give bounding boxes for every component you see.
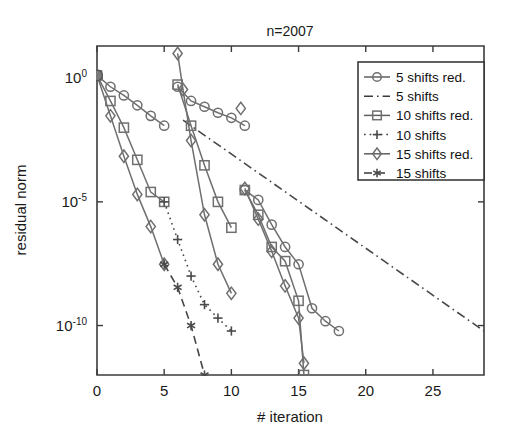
x-tick-label: 0 — [93, 382, 101, 399]
y-axis-label: residual norm — [12, 165, 29, 256]
x-axis-label: # iteration — [257, 408, 323, 425]
x-tick-label: 5 — [160, 382, 168, 399]
legend-label: 5 shifts red. — [396, 70, 466, 85]
legend-label: 5 shifts — [396, 89, 439, 104]
x-tick-label: 10 — [223, 382, 240, 399]
legend-label: 15 shifts red. — [396, 147, 473, 162]
residual-norm-convergence-chart: n=2007 0510152025 10010-510-10 # iterati… — [0, 0, 518, 444]
x-tick-label: 20 — [357, 382, 374, 399]
x-tick-label: 15 — [290, 382, 307, 399]
legend-label: 10 shifts red. — [396, 108, 473, 123]
legend-label: 10 shifts — [396, 128, 447, 143]
legend[interactable]: 5 shifts red.5 shifts10 shifts red.10 sh… — [358, 62, 484, 181]
legend-label: 15 shifts — [396, 166, 447, 181]
plot-title: n=2007 — [266, 23, 313, 39]
x-tick-label: 25 — [425, 382, 442, 399]
